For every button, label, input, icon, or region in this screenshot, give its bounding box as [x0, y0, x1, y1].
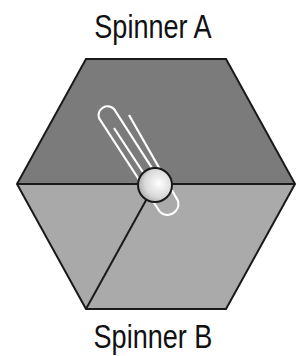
pivot-ball-icon [138, 168, 172, 202]
spinner-b-title: Spinner B [28, 318, 279, 356]
section-top-half [17, 59, 295, 184]
